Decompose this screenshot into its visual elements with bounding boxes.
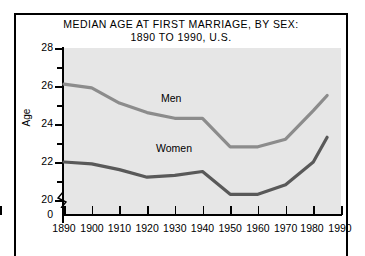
series-line-women [64,137,327,194]
series-label-women: Women [156,142,192,154]
series-label-men: Men [161,92,181,104]
series-line-men [64,84,327,147]
chart-figure: MEDIAN AGE AT FIRST MARRIAGE, BY SEX: 18… [0,0,365,256]
data-lines [0,0,365,256]
